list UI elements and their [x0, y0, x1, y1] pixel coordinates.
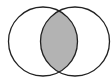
venn-diagram	[0, 0, 112, 81]
venn-diagram-svg	[0, 0, 112, 81]
